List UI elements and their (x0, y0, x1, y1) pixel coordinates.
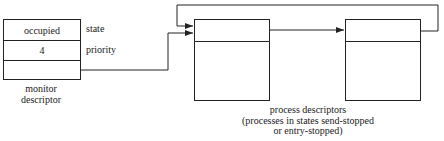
priority-field: 4 (4, 40, 80, 60)
diagram-canvas: occupied 4 state priority monitor descri… (0, 0, 444, 141)
link-field (195, 20, 269, 41)
process-descriptor-2 (345, 19, 421, 101)
state-value: occupied (24, 25, 60, 36)
monitor-descriptor-caption: monitor descriptor (0, 84, 82, 105)
process-link-pointer (259, 28, 344, 32)
body-field (195, 41, 269, 100)
monitor-descriptor-box: occupied 4 (3, 19, 81, 80)
state-label: state (86, 24, 104, 34)
process-descriptors-caption: process descriptors (processes in states… (227, 105, 389, 137)
process-descriptor-1 (194, 19, 270, 101)
priority-label: priority (86, 45, 116, 55)
state-field: occupied (4, 20, 80, 40)
link-field (346, 20, 420, 41)
queue-pointer-field (4, 60, 80, 80)
body-field (346, 41, 420, 100)
priority-value: 4 (40, 45, 45, 56)
